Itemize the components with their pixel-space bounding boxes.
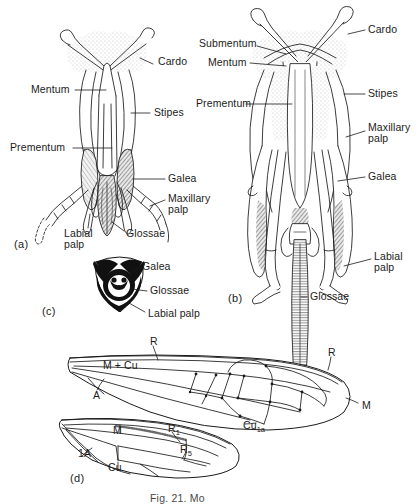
- panel-c-label-glossae: Glossae: [150, 285, 189, 297]
- figure-caption: Fig. 21. Mo: [150, 492, 205, 504]
- panel-id-d: (d): [70, 472, 84, 484]
- panel-a-label-cardo: Cardo: [158, 56, 187, 68]
- panel-c-label-galea: Galea: [142, 261, 171, 273]
- panel-d-label-1a: 1A: [78, 448, 91, 460]
- panel-a-label-labial-palp: Labial palp: [64, 228, 93, 250]
- panel-a-label-mentum: Mentum: [31, 84, 70, 96]
- panel-d-label-m-hind: M: [113, 425, 122, 437]
- panel-b-label-labial-palp: Labial palp: [374, 251, 403, 273]
- panel-b-label-prementum: Prementum: [196, 98, 251, 110]
- panel-d-label-cu-hind: Cu: [108, 462, 122, 474]
- panel-a-label-prementum: Prementum: [10, 142, 65, 154]
- panel-b-label-galea: Galea: [368, 171, 397, 183]
- panel-d-label-r1: R1: [168, 423, 180, 439]
- panel-b-label-cardo: Cardo: [368, 24, 397, 36]
- panel-d-label-cu1a: Cu1a: [243, 420, 265, 436]
- panel-b-label-mentum: Mentum: [208, 57, 247, 69]
- panel-d-label-m-plus-cu: M + Cu: [103, 360, 138, 372]
- panel-c-drawing: [93, 257, 145, 312]
- panel-a-label-maxillary-palp: Maxillary palp: [168, 193, 210, 215]
- panel-id-c: (c): [42, 305, 56, 317]
- panel-b-label-stipes: Stipes: [368, 88, 398, 100]
- panel-d-label-r-fore: R: [150, 336, 158, 348]
- vein-cu1a-base: Cu: [243, 419, 257, 431]
- vein-r5-sub: 5: [188, 449, 192, 458]
- panel-id-b: (b): [228, 292, 242, 304]
- panel-a-label-galea: Galea: [168, 173, 197, 185]
- panel-id-a: (a): [14, 238, 28, 250]
- vein-r5-base: R: [180, 443, 188, 455]
- panel-d-label-r-apex: R: [328, 347, 336, 359]
- vein-r1-sub: 1: [176, 428, 180, 437]
- panel-b-label-submentum: Submentum: [199, 38, 257, 50]
- panel-c-label-labial-palp: Labial palp: [148, 308, 200, 320]
- vein-cu1a-sub: 1a: [257, 425, 265, 434]
- panel-d-label-r5: R5: [180, 444, 192, 460]
- vein-r1-base: R: [168, 422, 176, 434]
- panel-b-drawing: [248, 7, 354, 413]
- panel-a-drawing: [35, 28, 168, 244]
- panel-d-label-m-fore: M: [362, 400, 371, 412]
- panel-a-label-glossae: Glossae: [126, 228, 165, 240]
- panel-b-label-glossae: Glossae: [310, 291, 349, 303]
- panel-b-label-maxillary-palp: Maxillary palp: [368, 122, 410, 144]
- panel-d-label-a: A: [93, 390, 100, 402]
- panel-a-label-stipes: Stipes: [154, 107, 184, 119]
